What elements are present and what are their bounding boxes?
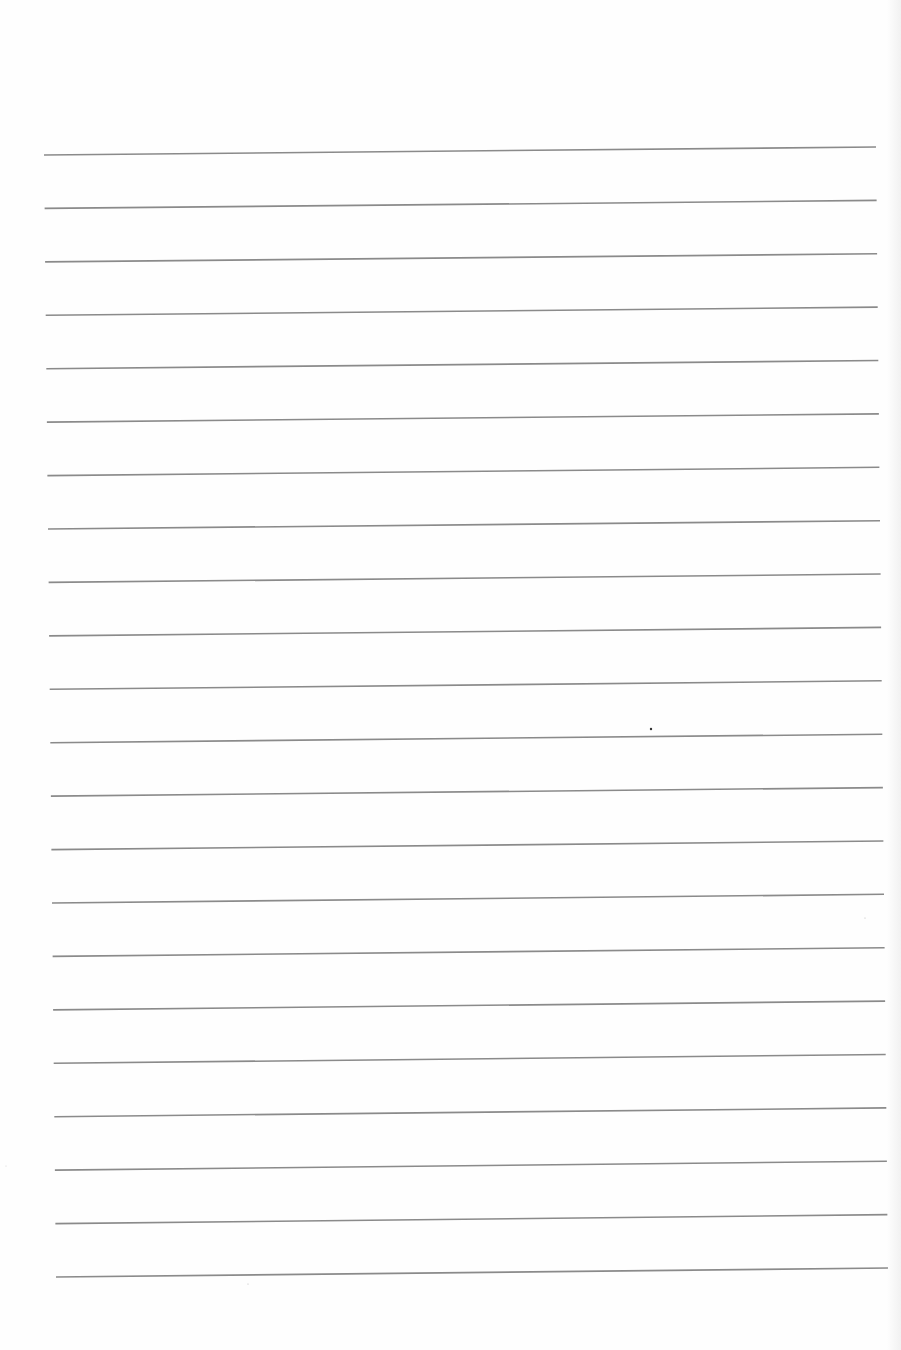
ruled-line: [49, 574, 881, 582]
ruled-line: [53, 1001, 885, 1010]
ruled-line: [49, 627, 881, 636]
ruled-line: [44, 147, 876, 155]
ruled-line: [47, 414, 879, 422]
ruled-line: [48, 521, 880, 529]
ruled-line: [51, 841, 883, 850]
ruled-line: [56, 1268, 888, 1277]
ruled-line: [45, 200, 877, 208]
page-edge-shadow: [887, 0, 901, 1350]
ruled-lines: [0, 0, 901, 1350]
ruled-paper-sheet: [0, 0, 901, 1350]
paper-speck: [650, 728, 652, 730]
ruled-line: [52, 894, 884, 903]
paper-speck: [247, 1283, 248, 1284]
ruled-line: [50, 734, 882, 743]
ruled-line: [54, 1108, 886, 1117]
ruled-line: [51, 788, 883, 797]
ruled-line: [46, 307, 878, 315]
paper-speck: [6, 1166, 7, 1167]
ruled-line: [45, 254, 877, 262]
ruled-line: [55, 1215, 887, 1224]
ruled-line: [54, 1055, 886, 1064]
ruled-line: [47, 467, 879, 475]
ruled-line: [46, 361, 878, 369]
ruled-line: [55, 1161, 887, 1170]
paper-speck: [864, 917, 865, 918]
ruled-line: [53, 948, 885, 957]
ruled-line: [50, 681, 882, 690]
